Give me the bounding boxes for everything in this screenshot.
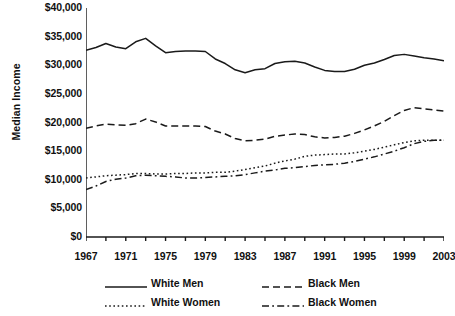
x-tick-label: 1995 [353,250,376,262]
x-tick-label: 2003 [433,250,455,262]
x-tick-label: 1971 [114,250,137,262]
legend-label: White Women [151,296,220,308]
y-axis-tick-labels: $0$5,000$10,000$15,000$20,000$25,000$30,… [0,0,82,253]
y-tick-label: $0 [71,230,82,242]
plot-area [86,8,444,245]
legend-line-swatch [262,297,304,307]
legend-label: Black Women [308,296,377,308]
y-tick-label: $35,000 [45,30,82,42]
series-line-white-women [86,140,444,178]
legend-item-black-men: Black Men [262,277,360,289]
legend-item-black-women: Black Women [262,296,377,308]
legend-line-swatch [105,297,147,307]
series-line-black-men [86,108,444,141]
legend-item-white-men: White Men [105,277,204,289]
x-tick-label: 1967 [75,250,98,262]
legend-item-white-women: White Women [105,296,220,308]
y-tick-label: $20,000 [45,116,82,128]
x-tick-label: 1987 [273,250,296,262]
x-tick-label: 1979 [194,250,217,262]
y-tick-label: $25,000 [45,87,82,99]
x-tick-label: 1991 [313,250,336,262]
y-tick-label: $10,000 [45,173,82,185]
legend-line-swatch [105,278,147,288]
y-tick-label: $5,000 [50,201,82,213]
plot-svg [86,8,444,245]
chart-legend: White MenWhite WomenBlack MenBlack Women [0,277,453,315]
series-line-black-women [86,140,444,189]
x-tick-label: 1999 [393,250,416,262]
series-line-white-men [86,38,444,72]
legend-line-swatch [262,278,304,288]
y-tick-label: $15,000 [45,144,82,156]
x-axis-tick-labels: 1967197119751979198319871991199519992003 [0,250,453,270]
x-tick-label: 1983 [234,250,257,262]
y-tick-label: $30,000 [45,58,82,70]
x-tick-label: 1975 [154,250,177,262]
legend-label: White Men [151,277,204,289]
y-tick-label: $40,000 [45,1,82,13]
legend-label: Black Men [308,277,360,289]
